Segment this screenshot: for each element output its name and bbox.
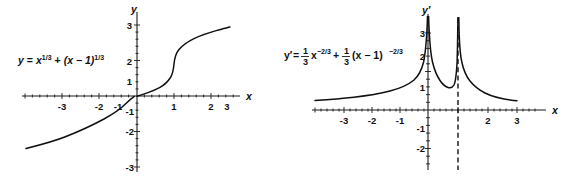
- curve-right-tail: [459, 33, 517, 101]
- y-tick-label: -2: [417, 143, 425, 154]
- y-tick-label: -1: [417, 123, 426, 134]
- function-plot-panel: -3 -2 -1 1 2 3 3 2 1 -1 -2 -3 x y y=x1/3…: [0, 0, 284, 176]
- x-tick-label: -2: [95, 101, 103, 112]
- y-axis-label: y′: [421, 4, 431, 16]
- function-equation: y=x1/3+(x − 1)1/3: [17, 54, 104, 66]
- curve-upper-branch: [137, 27, 230, 96]
- equation-frac1-denominator: 3: [303, 57, 308, 67]
- equation-frac2-numerator: 1: [344, 46, 349, 56]
- equation-frac1-numerator: 1: [303, 46, 308, 56]
- y-axis-label: y: [130, 3, 138, 15]
- equation-equals: =: [293, 49, 299, 61]
- x-tick-label: 3: [224, 101, 229, 112]
- equation-term1-exponent: 1/3: [42, 54, 52, 61]
- x-tick-label: 2: [485, 115, 490, 126]
- y-tick-label: -2: [126, 126, 134, 137]
- y-tick-label: 2: [420, 51, 425, 62]
- curve-middle-valley: [429, 33, 457, 88]
- y-tick-label: -1: [126, 106, 135, 117]
- x-axis-label: x: [245, 90, 253, 102]
- equation-lhs: y: [17, 54, 25, 66]
- derivative-plot-panel: -3 -2 -1 2 3 3 2 1 -1 -2 x y′ y′ = 1 3 x: [284, 0, 567, 176]
- y-tick-label: 1: [420, 82, 426, 93]
- equation-plus: +: [55, 54, 61, 66]
- y-tick-label: 3: [420, 28, 425, 39]
- equation-term1-exponent: −2/3: [317, 48, 331, 55]
- x-tick-label: -1: [114, 101, 123, 112]
- equation-equals: =: [27, 54, 33, 66]
- equation-plus: +: [333, 49, 339, 61]
- equation-term2-base: (x − 1): [64, 54, 95, 66]
- y-tick-label: 3: [127, 20, 132, 31]
- equation-term2-exponent: −2/3: [389, 48, 403, 55]
- equation-lhs: y′: [284, 49, 293, 61]
- equation-frac2-denominator: 3: [344, 57, 349, 67]
- math-figure: -3 -2 -1 1 2 3 3 2 1 -1 -2 -3 x y y=x1/3…: [0, 0, 567, 176]
- function-plot-svg: -3 -2 -1 1 2 3 3 2 1 -1 -2 -3 x y y=x1/3…: [0, 0, 284, 176]
- x-tick-label: -3: [340, 115, 348, 126]
- equation-term2-base: (x − 1): [352, 49, 383, 61]
- x-tick-label: 3: [514, 115, 519, 126]
- x-tick-label: -3: [58, 101, 66, 112]
- spike-at-zero: [427, 16, 428, 33]
- x-tick-label: 1: [171, 101, 177, 112]
- y-tick-label: -3: [126, 162, 134, 173]
- x-tick-label: -1: [396, 115, 405, 126]
- curve-left-tail: [315, 33, 427, 101]
- derivative-equation: y′ = 1 3 x −2/3 + 1 3 (x − 1) −2/3: [284, 46, 403, 67]
- spike-at-zero-right: [429, 16, 430, 33]
- derivative-plot-svg: -3 -2 -1 2 3 3 2 1 -1 -2 x y′ y′ = 1 3 x: [284, 0, 567, 176]
- x-axis-label: x: [551, 104, 559, 116]
- x-tick-label: 2: [208, 101, 213, 112]
- x-tick-label: -2: [368, 115, 376, 126]
- equation-term2-exponent: 1/3: [94, 54, 104, 61]
- y-tick-label: 2: [127, 56, 132, 67]
- y-tick-label: 1: [127, 76, 133, 87]
